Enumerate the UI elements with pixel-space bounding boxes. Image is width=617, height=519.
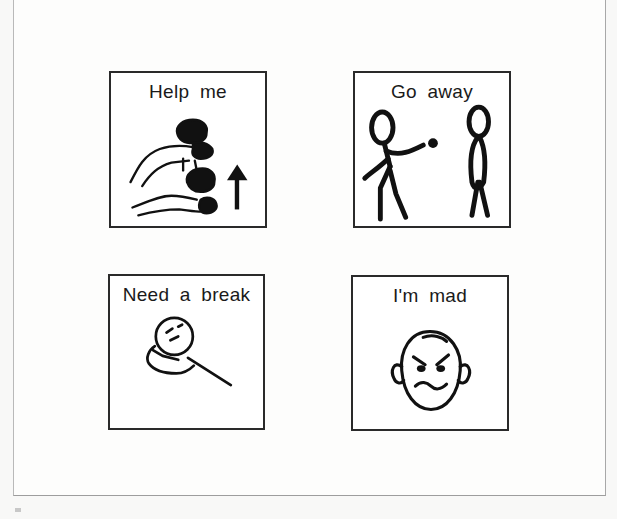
scan-mark (15, 508, 21, 512)
angry-face-icon (353, 277, 507, 429)
two-people-go-away-icon (355, 73, 509, 226)
card-help-me[interactable]: Help me (109, 71, 267, 228)
helping-hands-icon (111, 73, 265, 226)
outer-frame (13, 0, 606, 496)
card-im-mad[interactable]: I'm mad (351, 275, 509, 431)
card-need-a-break[interactable]: Need a break (108, 274, 265, 430)
card-go-away[interactable]: Go away (353, 71, 511, 228)
scanned-page: Help me (0, 0, 617, 519)
resting-head-icon (110, 276, 263, 428)
